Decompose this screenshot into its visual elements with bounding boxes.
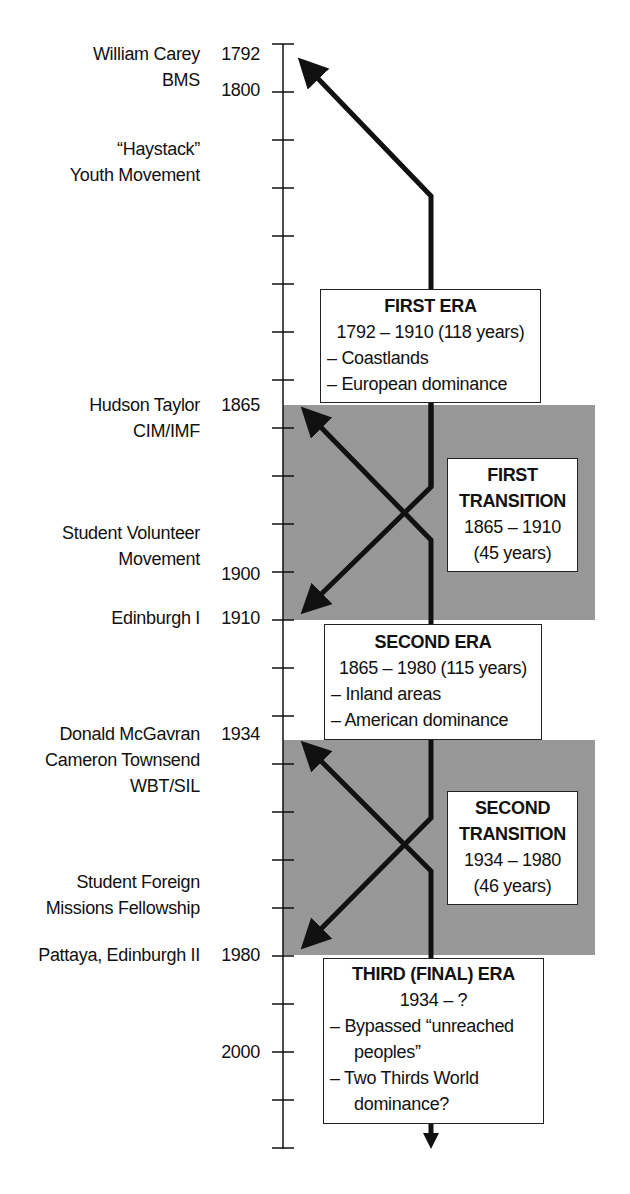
year-label: 1980 bbox=[221, 942, 260, 968]
second-transition-range: 1934 – 1980 bbox=[448, 847, 577, 873]
event-label-line: “Haystack” bbox=[70, 136, 200, 162]
third-era-title: THIRD (FINAL) ERA bbox=[324, 961, 543, 987]
year-label: 1792 bbox=[221, 41, 260, 67]
event-label-line: Edinburgh I bbox=[111, 605, 200, 631]
event-label: Edinburgh I bbox=[111, 605, 200, 631]
third-era-bullet: – Bypassed “unreached bbox=[324, 1013, 543, 1039]
second-era-title: SECOND ERA bbox=[325, 629, 541, 655]
first-era-bullet: – Coastlands bbox=[321, 345, 540, 371]
event-label: Donald McGavranCameron TownsendWBT/SIL bbox=[45, 721, 200, 799]
first-era-range: 1792 – 1910 (118 years) bbox=[321, 319, 540, 345]
event-label: Hudson TaylorCIM/IMF bbox=[89, 392, 200, 444]
event-label-line: Student Volunteer bbox=[62, 520, 200, 546]
event-label-line: Pattaya, Edinburgh II bbox=[38, 942, 200, 968]
year-label: 1934 bbox=[221, 721, 260, 747]
third-era-box: THIRD (FINAL) ERA 1934 – ? – Bypassed “u… bbox=[323, 958, 544, 1124]
event-label: William CareyBMS bbox=[93, 41, 200, 93]
event-label: Student ForeignMissions Fellowship bbox=[46, 869, 200, 921]
second-era-range: 1865 – 1980 (115 years) bbox=[325, 655, 541, 681]
third-era-bullet: dominance? bbox=[324, 1091, 543, 1117]
event-label-line: Student Foreign bbox=[46, 869, 200, 895]
event-label-line: William Carey bbox=[93, 41, 200, 67]
second-transition-title: TRANSITION bbox=[448, 821, 577, 847]
first-era-bullet: – European dominance bbox=[321, 371, 540, 397]
second-transition-title: SECOND bbox=[448, 795, 577, 821]
second-era-bullet: – American dominance bbox=[325, 707, 541, 733]
first-transition-range: 1865 – 1910 bbox=[448, 514, 577, 540]
event-label: Student VolunteerMovement bbox=[62, 520, 200, 572]
event-label-line: BMS bbox=[93, 67, 200, 93]
year-label: 1800 bbox=[221, 77, 260, 103]
first-era-box: FIRST ERA 1792 – 1910 (118 years) – Coas… bbox=[320, 289, 541, 403]
year-label: 1900 bbox=[221, 561, 260, 587]
year-label: 1910 bbox=[221, 605, 260, 631]
third-era-bullet: peoples” bbox=[324, 1039, 543, 1065]
third-era-range: 1934 – ? bbox=[324, 987, 543, 1013]
event-label-line: Donald McGavran bbox=[45, 721, 200, 747]
event-label-line: Youth Movement bbox=[70, 162, 200, 188]
third-era-bullet: – Two Thirds World bbox=[324, 1065, 543, 1091]
future-arrow-icon bbox=[423, 1133, 439, 1149]
year-label: 1865 bbox=[221, 392, 260, 418]
first-transition-duration: (45 years) bbox=[448, 540, 577, 566]
event-label-line: CIM/IMF bbox=[89, 418, 200, 444]
event-label: Pattaya, Edinburgh II bbox=[38, 942, 200, 968]
year-label: 2000 bbox=[221, 1039, 260, 1065]
event-label-line: Movement bbox=[62, 546, 200, 572]
event-label-line: Cameron Townsend bbox=[45, 747, 200, 773]
first-transition-title: TRANSITION bbox=[448, 488, 577, 514]
event-label-line: Hudson Taylor bbox=[89, 392, 200, 418]
time-axis bbox=[272, 44, 294, 1149]
first-era-title: FIRST ERA bbox=[321, 293, 540, 319]
second-transition-box: SECOND TRANSITION 1934 – 1980 (46 years) bbox=[447, 791, 578, 905]
first-transition-title: FIRST bbox=[448, 462, 577, 488]
first-transition-box: FIRST TRANSITION 1865 – 1910 (45 years) bbox=[447, 458, 578, 572]
second-era-bullet: – Inland areas bbox=[325, 681, 541, 707]
second-era-box: SECOND ERA 1865 – 1980 (115 years) – Inl… bbox=[324, 624, 542, 740]
event-label-line: WBT/SIL bbox=[45, 773, 200, 799]
event-label-line: Missions Fellowship bbox=[46, 895, 200, 921]
event-label: “Haystack”Youth Movement bbox=[70, 136, 200, 188]
second-transition-duration: (46 years) bbox=[448, 873, 577, 899]
